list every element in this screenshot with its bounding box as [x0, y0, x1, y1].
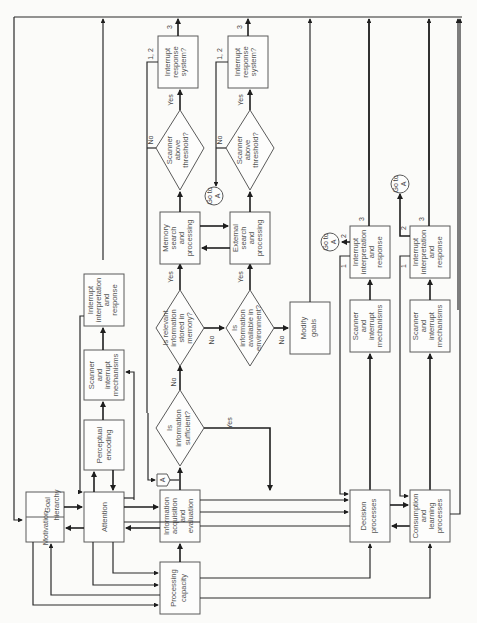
svg-text:Perceptual: Perceptual	[95, 427, 104, 464]
svg-text:3: 3	[418, 217, 425, 221]
svg-text:2: 2	[340, 234, 347, 238]
svg-text:Yes: Yes	[237, 94, 244, 106]
svg-text:memory?: memory?	[185, 312, 194, 344]
svg-text:1: 1	[400, 264, 407, 268]
svg-text:Is: Is	[165, 425, 174, 431]
svg-text:information: information	[174, 409, 183, 447]
svg-text:1, 2: 1, 2	[216, 48, 223, 60]
svg-text:processing: processing	[185, 220, 194, 257]
flowchart-diagram: Motivation Goal hierarchy Attention Perc…	[0, 0, 477, 623]
svg-text:environment?: environment?	[254, 305, 263, 351]
info-acquisition-box: Information acquisition and evaluation	[160, 490, 200, 542]
decision-info-environment: Is information available in environment?	[226, 290, 274, 366]
svg-text:processing: processing	[255, 220, 264, 257]
svg-text:response: response	[110, 284, 119, 315]
svg-text:Yes: Yes	[226, 417, 233, 429]
svg-text:No: No	[147, 135, 154, 144]
svg-text:hierarchy: hierarchy	[52, 489, 61, 520]
svg-text:No: No	[208, 335, 215, 344]
modify-goals-box: Modify goals	[290, 302, 330, 354]
svg-text:Go to: Go to	[206, 187, 213, 204]
interrupt-interpretation-box-3: Interrupt interpretation and response	[410, 226, 450, 278]
decision-scanner-threshold-1: Scanner above threshold?	[156, 110, 204, 190]
svg-text:A: A	[214, 193, 221, 198]
svg-text:3: 3	[166, 25, 173, 29]
svg-text:processes: processes	[435, 498, 444, 533]
processing-capacity-box: Processing capacity	[160, 562, 200, 614]
decision-scanner-threshold-2: Scanner above threshold?	[226, 110, 274, 190]
svg-text:Yes: Yes	[167, 94, 174, 106]
interrupt-response-box-2: Interrupt response system?	[228, 36, 268, 88]
svg-text:mechanisms: mechanisms	[375, 304, 384, 347]
svg-text:No: No	[170, 377, 177, 386]
svg-text:A: A	[159, 477, 166, 482]
scanner-interrupt-box-1: Scanner and interrupt mechanisms	[84, 350, 124, 400]
scanner-interrupt-box-3: Scanner and interrupt mechanisms	[410, 300, 450, 352]
goto-a-connector-3: Go to A	[391, 175, 409, 193]
svg-text:Modify: Modify	[299, 317, 308, 340]
svg-text:3: 3	[358, 217, 365, 221]
svg-text:Go to: Go to	[392, 175, 399, 192]
svg-text:encoding: encoding	[104, 430, 113, 461]
svg-text:1: 1	[340, 264, 347, 268]
scanner-interrupt-box-2: Scanner and interrupt mechanisms	[350, 300, 390, 352]
external-search-box: External search and processing	[230, 212, 270, 264]
goto-a-connector-1: Go to A	[205, 187, 223, 205]
svg-text:A: A	[330, 239, 337, 244]
interrupt-response-box-1: Interrupt response system?	[158, 36, 198, 88]
svg-text:mechanisms: mechanisms	[435, 304, 444, 347]
decision-processes-box: Decision processes	[350, 490, 390, 542]
svg-text:No: No	[278, 335, 285, 344]
svg-text:1, 2: 1, 2	[147, 48, 154, 60]
svg-text:Decision: Decision	[359, 501, 368, 530]
interrupt-interpretation-box-2: Interrupt interpretation and response	[350, 226, 390, 278]
attention-label: Attention	[100, 502, 109, 532]
svg-text:sufficient?: sufficient?	[183, 411, 192, 445]
goto-a-connector-2: Go to A	[321, 233, 339, 251]
svg-text:capacity: capacity	[179, 574, 188, 602]
top-feedback-bus	[14, 17, 462, 520]
decision-info-sufficient: Is information sufficient?	[156, 390, 204, 466]
svg-text:evaluation: evaluation	[186, 499, 195, 534]
memory-search-box: Memory search and processing	[160, 212, 200, 264]
svg-text:Go to: Go to	[322, 233, 329, 250]
svg-text:Goal: Goal	[43, 497, 52, 513]
consumption-learning-box: Consumption and learning processes	[410, 490, 450, 542]
svg-text:processes: processes	[369, 498, 378, 533]
svg-text:A: A	[400, 181, 407, 186]
motivation-label: Motivation	[41, 511, 50, 546]
attention-box: Attention	[84, 492, 124, 542]
svg-text:response: response	[435, 236, 444, 267]
svg-text:Yes: Yes	[237, 271, 244, 283]
svg-text:response: response	[375, 236, 384, 267]
svg-text:No: No	[216, 135, 223, 144]
svg-text:3: 3	[236, 25, 243, 29]
svg-text:system?: system?	[179, 48, 188, 76]
svg-text:Processing: Processing	[169, 569, 178, 607]
connector-a: A	[157, 474, 170, 486]
svg-text:threshold?: threshold?	[181, 132, 190, 167]
svg-text:goals: goals	[309, 319, 318, 337]
interrupt-interpretation-box-1: Interrupt interpretation and response	[84, 274, 124, 326]
svg-text:Yes: Yes	[167, 271, 174, 283]
svg-text:2: 2	[400, 226, 407, 230]
svg-text:system?: system?	[249, 48, 258, 76]
decision-relevant-memory: Is relevant information stored in memory…	[156, 290, 204, 366]
perceptual-encoding-box: Perceptual encoding	[84, 420, 124, 470]
svg-text:mechanisms: mechanisms	[111, 353, 120, 396]
flowchart-canvas: Motivation Goal hierarchy Attention Perc…	[0, 0, 477, 623]
svg-text:threshold?: threshold?	[251, 132, 260, 167]
motivation-goal-box: Motivation Goal hierarchy	[26, 489, 64, 545]
